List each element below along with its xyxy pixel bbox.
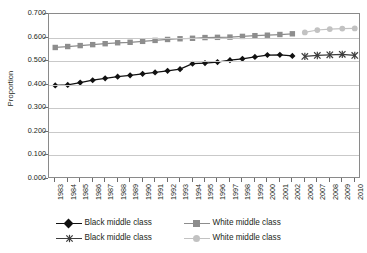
y-tick-mark	[44, 84, 48, 85]
x-tick-mark	[279, 178, 280, 182]
x-tick-label: 2006	[307, 184, 314, 200]
series-1	[53, 31, 296, 50]
x-tick-label: 1989	[132, 184, 139, 200]
x-tick-label: 1984	[70, 184, 77, 200]
legend-item-0[interactable]: Black middle class	[56, 216, 184, 231]
x-tick-label: 1990	[145, 184, 152, 200]
plot-area	[48, 13, 360, 178]
circle-marker	[352, 25, 358, 31]
circle-marker	[302, 29, 308, 35]
y-tick-mark	[44, 131, 48, 132]
x-tick-label: 2007	[319, 184, 326, 200]
diamond-marker	[252, 54, 258, 60]
square-marker	[90, 42, 95, 47]
y-tick-mark	[44, 154, 48, 155]
x-marker-icon	[56, 233, 82, 244]
x-tick-label: 1997	[232, 184, 239, 200]
square-marker	[290, 31, 295, 36]
legend-item-3[interactable]: White middle class	[184, 231, 312, 246]
legend-label: White middle class	[210, 219, 281, 227]
diamond-marker	[90, 77, 96, 83]
x-tick-mark	[129, 178, 130, 182]
x-tick-label: 1998	[244, 184, 251, 200]
legend-item-1[interactable]: White middle class	[184, 216, 312, 231]
x-tick-label: 1983	[57, 184, 64, 200]
x-tick-mark	[79, 178, 80, 182]
x-tick-mark	[179, 178, 180, 182]
x-marker	[66, 235, 72, 242]
square-marker-icon	[184, 218, 210, 229]
x-tick-mark	[341, 178, 342, 182]
legend-label: Black middle class	[82, 219, 152, 227]
legend-label: White middle class	[210, 234, 281, 242]
legend-label: Black middle class	[82, 234, 152, 242]
legend-circle-marker-icon	[193, 235, 200, 242]
y-tick-label: 0.300	[8, 103, 46, 110]
square-marker	[115, 40, 120, 45]
x-tick-label: 1991	[157, 184, 164, 200]
series-svg	[49, 14, 361, 179]
x-tick-label: 2010	[357, 184, 364, 200]
y-tick-label: 0.400	[8, 80, 46, 87]
y-tick-label: 0.200	[8, 127, 46, 134]
x-tick-mark	[142, 178, 143, 182]
legend-item-2[interactable]: Black middle class	[56, 231, 184, 246]
gridline	[49, 132, 359, 133]
y-tick-label: 0.700	[8, 9, 46, 16]
gridline	[49, 85, 359, 86]
x-tick-mark	[167, 178, 168, 182]
chart-legend: Black middle class White middle class Bl…	[0, 216, 367, 246]
x-tick-mark	[92, 178, 93, 182]
y-tick-label: 0.000	[8, 174, 46, 181]
x-tick-mark	[117, 178, 118, 182]
x-tick-mark	[316, 178, 317, 182]
square-marker	[140, 39, 145, 44]
gridline	[49, 155, 359, 156]
series-3	[302, 25, 358, 35]
circle-marker-icon	[184, 233, 210, 244]
x-tick-label: 1996	[219, 184, 226, 200]
diamond-marker	[102, 75, 108, 81]
x-tick-label: 1993	[182, 184, 189, 200]
square-marker	[277, 32, 282, 37]
x-tick-mark	[67, 178, 68, 182]
diamond-marker	[177, 66, 183, 72]
gridline	[49, 38, 359, 39]
series-0	[52, 52, 295, 89]
circle-marker	[339, 26, 345, 32]
x-tick-mark	[216, 178, 217, 182]
legend-square-marker-icon	[193, 220, 200, 227]
y-axis-tick-labels: 0.7000.6000.5000.4000.3000.2000.1000.000	[8, 0, 46, 185]
x-tick-label: 1988	[120, 184, 127, 200]
square-marker	[78, 43, 83, 48]
x-tick-mark	[241, 178, 242, 182]
x-tick-label: 2008	[332, 184, 339, 200]
x-tick-label: 1994	[195, 184, 202, 200]
gridline	[49, 61, 359, 62]
series-2	[302, 51, 358, 60]
x-tick-label: 1987	[107, 184, 114, 200]
y-tick-mark	[44, 178, 48, 179]
diamond-marker	[164, 68, 170, 74]
x-tick-mark	[354, 178, 355, 182]
x-tick-label: 1999	[257, 184, 264, 200]
square-marker	[65, 44, 70, 49]
legend-row-1: Black middle class White middle class	[0, 216, 367, 231]
x-tick-mark	[192, 178, 193, 182]
legend-x-marker-icon	[64, 233, 75, 244]
y-tick-label: 0.500	[8, 56, 46, 63]
x-tick-label: 2002	[294, 184, 301, 200]
x-tick-label: 2009	[344, 184, 351, 200]
x-tick-mark	[304, 178, 305, 182]
x-tick-label: 2001	[282, 184, 289, 200]
x-tick-label: 1992	[170, 184, 177, 200]
x-tick-mark	[204, 178, 205, 182]
x-tick-mark	[104, 178, 105, 182]
y-tick-mark	[44, 107, 48, 108]
diamond-marker	[277, 52, 283, 58]
diamond-marker-icon	[56, 218, 82, 229]
y-tick-mark	[44, 60, 48, 61]
diamond-marker	[127, 72, 133, 78]
gridline	[49, 108, 359, 109]
x-tick-label: 2000	[269, 184, 276, 200]
